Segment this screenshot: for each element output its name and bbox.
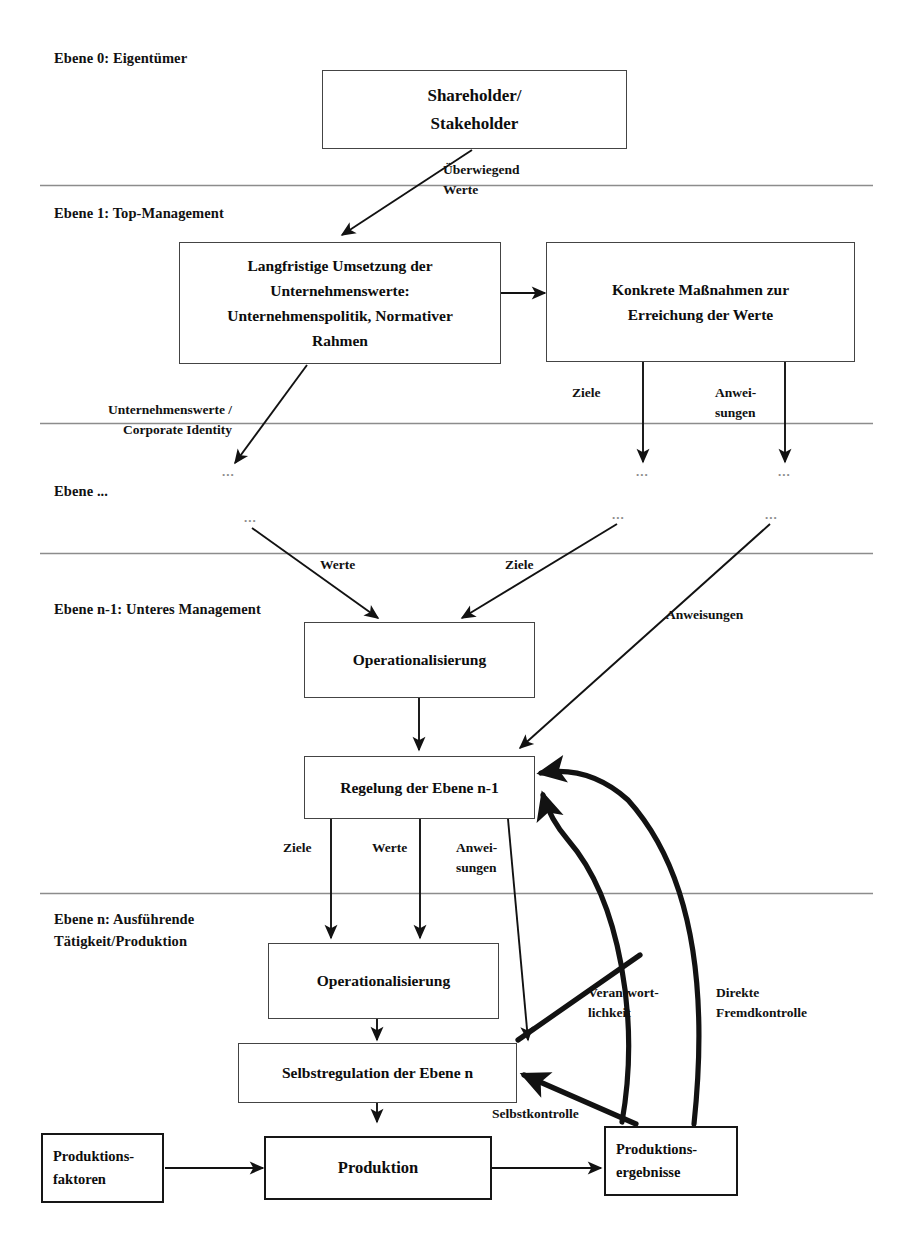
edge-label-werte-low: Werte: [372, 838, 407, 858]
node-selbstregulation-ebene-n: Selbstregulation der Ebene n: [238, 1043, 517, 1103]
node-langfristige-umsetzung-label: Langfristige Umsetzung der Unternehmensw…: [221, 253, 459, 353]
level-label-ebene-1: Ebene 1: Top-Management: [54, 202, 224, 224]
node-regelung-ebene-n-1: Regelung der Ebene n-1: [304, 756, 535, 819]
node-produktionsergebnisse-label: Produktions- ergebnisse: [606, 1138, 736, 1185]
edge-verantwortlichkeit: [543, 795, 628, 1122]
edge-label-ziele-top: Ziele: [572, 383, 601, 403]
edge-label-verantwortlichkeit: Verantwort- lichkeit: [588, 983, 659, 1024]
node-operationalisierung-ebene-n-1-label: Operationalisierung: [347, 647, 492, 672]
node-shareholder-stakeholder-label: Shareholder/ Stakeholder: [421, 82, 527, 137]
node-operationalisierung-ebene-n-label: Operationalisierung: [311, 968, 456, 993]
ellipsis-mark-above-werte-mid: ...: [244, 511, 257, 524]
edge-werte-to-operationalisierung-n1: [252, 528, 378, 618]
level-label-ebene-mid: Ebene ...: [54, 480, 108, 502]
edge-label-ueberwiegend-werte: Überwiegend Werte: [443, 160, 520, 201]
node-produktionsergebnisse: Produktions- ergebnisse: [604, 1126, 738, 1196]
edge-label-anweisungen-mid: Anweisungen: [666, 605, 743, 625]
ellipsis-mark-above-ziele-mid: ...: [612, 508, 625, 521]
edge-label-direkte-fremdkontrolle: Direkte Fremdkontrolle: [716, 983, 807, 1024]
node-produktion: Produktion: [264, 1136, 492, 1200]
edge-label-anweisungen-low: Anwei- sungen: [456, 838, 497, 879]
ellipsis-mark-below-ziele-top: ...: [636, 465, 649, 478]
node-langfristige-umsetzung: Langfristige Umsetzung der Unternehmensw…: [179, 242, 501, 364]
node-regelung-ebene-n-1-label: Regelung der Ebene n-1: [334, 775, 505, 800]
edge-label-selbstkontrolle: Selbstkontrolle: [492, 1104, 579, 1124]
ellipsis-mark-below-langfristige: ...: [222, 465, 235, 478]
level-label-ebene-n-1: Ebene n-1: Unteres Management: [54, 598, 261, 620]
level-label-ebene-n: Ebene n: Ausführende Tätigkeit/Produktio…: [54, 908, 194, 953]
ellipsis-mark-above-anweisungen-mid: ...: [765, 508, 778, 521]
node-selbstregulation-ebene-n-label: Selbstregulation der Ebene n: [276, 1060, 479, 1085]
level-label-ebene-0: Ebene 0: Eigentümer: [54, 47, 187, 69]
edge-regelung-anweisungen: [508, 819, 528, 1040]
node-shareholder-stakeholder: Shareholder/ Stakeholder: [322, 70, 627, 149]
node-produktionsfaktoren-label: Produktions- faktoren: [43, 1145, 162, 1192]
node-konkrete-massnahmen: Konkrete Maßnahmen zur Erreichung der We…: [546, 242, 855, 362]
diagram-canvas: Ebene 0: Eigentümer Ebene 1: Top-Managem…: [0, 0, 913, 1254]
ellipsis-mark-below-anweisungen-top: ...: [778, 465, 791, 478]
node-produktionsfaktoren: Produktions- faktoren: [41, 1133, 164, 1203]
node-produktion-label: Produktion: [332, 1155, 424, 1182]
edge-label-unternehmenswerte-corporate-identity: Unternehmenswerte / Corporate Identity: [72, 400, 232, 441]
edge-label-ziele-low: Ziele: [283, 838, 312, 858]
edge-langfristige-to-mid: [235, 365, 307, 463]
node-konkrete-massnahmen-label: Konkrete Maßnahmen zur Erreichung der We…: [606, 277, 795, 327]
edge-label-werte-mid: Werte: [320, 555, 355, 575]
edge-label-ziele-mid: Ziele: [505, 555, 534, 575]
edge-anweisungen-to-regelung: [520, 524, 770, 748]
node-operationalisierung-ebene-n: Operationalisierung: [268, 943, 499, 1019]
node-operationalisierung-ebene-n-1: Operationalisierung: [304, 622, 535, 698]
edge-ziele-to-operationalisierung-n1: [462, 524, 617, 618]
edge-label-anweisungen-top: Anwei- sungen: [715, 383, 756, 424]
